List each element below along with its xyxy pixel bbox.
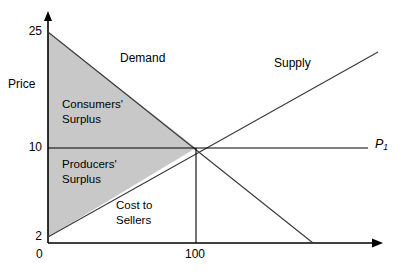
consumers-surplus-label-line2: Surplus xyxy=(62,113,101,126)
demand-curve-label: Demand xyxy=(120,52,165,65)
cost-to-sellers-label-line2: Sellers xyxy=(116,214,151,227)
producers-surplus-label-line2: Surplus xyxy=(62,173,101,186)
y-axis-arrowhead xyxy=(44,11,52,21)
x-axis-arrowhead xyxy=(372,239,383,248)
price-line-subscript: 1 xyxy=(383,142,388,152)
origin-label: 0 xyxy=(36,248,43,261)
y-tick-label-10: 10 xyxy=(22,141,42,154)
consumers-surplus-label-line1: Consumers' xyxy=(62,98,123,111)
price-axis-label: Price xyxy=(8,78,35,91)
price-line-label: P1 xyxy=(375,138,388,152)
y-tick-label-25: 25 xyxy=(22,25,42,38)
y-tick-label-2: 2 xyxy=(22,230,42,243)
cost-to-sellers-label-line1: Cost to xyxy=(116,199,152,212)
x-tick-label-100: 100 xyxy=(185,248,205,261)
chart-canvas xyxy=(0,0,401,276)
producers-surplus-label-line1: Producers' xyxy=(62,158,117,171)
supply-curve-label: Supply xyxy=(274,57,311,70)
supply-demand-figure: Price 25 10 2 0 100 Demand Supply P1 Con… xyxy=(0,0,401,276)
